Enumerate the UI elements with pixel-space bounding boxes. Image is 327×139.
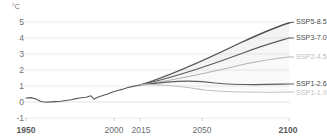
x-tick-label-2050: 2050 [193, 126, 212, 135]
x-tick-label-2015: 2015 [132, 126, 151, 135]
legend-item-ssp5-85[interactable]: SSP5-8.5 [296, 18, 327, 26]
x-tick-label-2000: 2000 [105, 126, 124, 135]
legend-item-ssp3-70[interactable]: SSP3-7.0 [296, 34, 327, 42]
x-tick-label-1950: 1950 [17, 126, 36, 135]
legend-item-ssp1-26[interactable]: SSP1-2.6 [296, 80, 327, 88]
x-tick-label-2100: 2100 [279, 126, 298, 135]
legend-item-ssp1-19[interactable]: SSP1-1.9 [296, 89, 327, 97]
x-axis: 1950 2000 2015 2050 2100 [0, 124, 325, 139]
series-line-historical [26, 85, 140, 102]
legend-item-ssp2-45[interactable]: SSP2-4.5 [296, 53, 327, 61]
legend-leader-lines [289, 22, 294, 92]
